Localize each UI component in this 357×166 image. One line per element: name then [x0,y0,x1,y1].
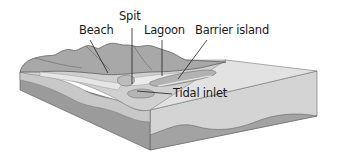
label-beach: Beach [79,25,114,37]
label-tidal-inlet: Tidal inlet [173,88,227,100]
label-spit: Spit [119,11,141,23]
coastal-diagram: Beach Spit Lagoon Barrier island Tidal i… [0,0,357,166]
label-barrier-island: Barrier island [195,25,269,37]
tidal-inlet-shoal [128,89,155,98]
label-lagoon: Lagoon [144,25,185,37]
